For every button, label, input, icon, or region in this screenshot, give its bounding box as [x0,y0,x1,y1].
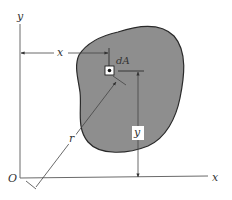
shaded-area-region [77,27,184,153]
x-axis [20,176,208,178]
x-axis-label: x [212,171,219,184]
y-distance-label: y [133,126,141,139]
area-element-dot [108,69,112,73]
element-label: dA [116,55,130,66]
origin-label: O [8,172,17,185]
radius-tail-tick [26,181,36,189]
x-distance-label: x [57,46,64,59]
area-element-diagram: y x O x y r dA [0,0,232,200]
y-axis-label: y [16,10,24,23]
radius-label: r [69,132,75,145]
